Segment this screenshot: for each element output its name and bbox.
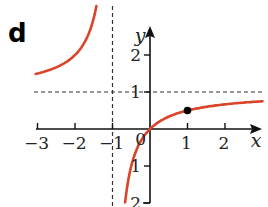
axes — [36, 26, 262, 203]
origin-label: 0 — [135, 129, 146, 149]
y-tick-label: 2 — [130, 45, 141, 65]
x-tick-label: 1 — [181, 133, 192, 153]
right-branch-curve — [125, 101, 262, 202]
tick-labels: −3−2−11221120xy — [24, 24, 262, 207]
x-tick-label: −2 — [61, 133, 86, 153]
point-marker — [184, 107, 192, 115]
y-tick-label: 1 — [130, 156, 141, 176]
x-tick-label: −1 — [99, 133, 124, 153]
x-tick-label: 2 — [219, 133, 230, 153]
y-tick-label: 1 — [130, 82, 141, 102]
marked-points — [184, 107, 192, 115]
x-axis-label: x — [251, 129, 262, 151]
function-graph: −3−2−11221120xy — [0, 0, 268, 207]
left-branch-curve — [36, 6, 97, 74]
y-axis-label: y — [134, 24, 146, 46]
x-tick-label: −3 — [24, 133, 49, 153]
y-tick-label: 2 — [130, 193, 141, 207]
